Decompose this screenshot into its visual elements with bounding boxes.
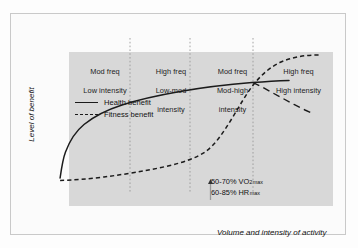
- x-axis-label: Volume and intensity of activity: [217, 228, 327, 237]
- zone-label-3: Mod freq Mod-high intensity: [201, 58, 264, 124]
- zone-label-3-line3: intensity: [201, 105, 264, 114]
- annotation-line-2-max: max: [250, 188, 260, 199]
- annotation-line-2-text: 60-85% HR: [211, 188, 249, 199]
- zone-label-2-line2: Low-mod: [141, 86, 201, 95]
- zone-label-3-line2: Mod-high: [201, 86, 264, 95]
- zone-label-2-line1: High freq: [141, 67, 201, 76]
- zone-label-4-line2: High intensity: [264, 86, 333, 95]
- figure-container: Level of benefit Volume and intensity of…: [0, 0, 358, 248]
- solid-line-swatch-icon: [75, 98, 98, 106]
- zone-label-4: High freq High intensity: [264, 58, 333, 105]
- legend-label-fitness: Fitness benefit: [104, 110, 153, 119]
- zone-label-1-line2: Low intensity: [69, 86, 141, 95]
- annotation-line-2: 60-85% HRmax: [211, 188, 263, 199]
- zone-label-1-line1: Mod freq: [69, 67, 141, 76]
- up-arrow-icon: [207, 178, 214, 202]
- legend-item-fitness: Fitness benefit: [75, 108, 153, 120]
- legend-item-health: Health benefit: [75, 96, 153, 108]
- dashed-line-swatch-icon: [75, 110, 98, 118]
- chart-legend: Health benefit Fitness benefit: [75, 96, 153, 120]
- annotation-line-1-text: 50-70% VO: [211, 177, 249, 188]
- legend-label-health: Health benefit: [104, 98, 151, 107]
- intensity-annotation: 50-70% VO2max 60-85% HRmax: [211, 177, 263, 198]
- y-axis-label: Level of benefit: [27, 67, 36, 163]
- annotation-line-1: 50-70% VO2max: [211, 177, 263, 188]
- figure-frame: Level of benefit Volume and intensity of…: [10, 13, 346, 235]
- zone-label-4-line1: High freq: [264, 67, 333, 76]
- zone-label-3-line1: Mod freq: [201, 67, 264, 76]
- annotation-line-1-max: max: [253, 177, 263, 188]
